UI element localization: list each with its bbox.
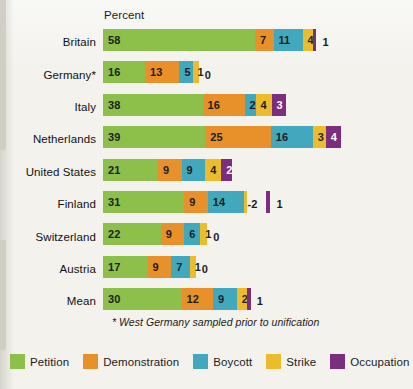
- segment-value: 7: [171, 261, 182, 273]
- chart-row: Switzerland229610: [0, 220, 413, 252]
- bar-segment-strike: 4: [256, 94, 272, 116]
- bar-segment-demonstration: 7: [255, 29, 274, 51]
- legend-item-strike[interactable]: Strike: [266, 354, 316, 369]
- bar-segment-demonstration: 9: [158, 159, 182, 181]
- bar-segment-strike: 2: [237, 288, 247, 310]
- stacked-bar: 3191421: [103, 191, 270, 213]
- bar-segment-demonstration: 9: [148, 256, 172, 278]
- bar-segment-petition: 16: [103, 61, 145, 83]
- stacked-bar: 3816243: [103, 94, 286, 116]
- bar-segment-strike: 1: [193, 61, 199, 83]
- segment-value: 1: [193, 66, 204, 78]
- legend-item-occupation[interactable]: Occupation: [330, 354, 409, 369]
- bar-segment-strike: 1: [190, 256, 196, 278]
- bar-segment-boycott: 16: [271, 126, 313, 148]
- segment-value: 58: [103, 34, 120, 46]
- bar-segment-occupation: 4: [326, 126, 342, 148]
- segment-value: 4: [256, 99, 267, 111]
- chart-row: Austria179710: [0, 253, 413, 285]
- bar-segment-petition: 21: [103, 159, 158, 181]
- legend-swatch-demonstration: [83, 354, 98, 369]
- bar-segment-demonstration: 9: [161, 223, 185, 245]
- segment-value: 13: [145, 66, 162, 78]
- legend-label: Petition: [30, 356, 69, 368]
- bar-outer-value: 1: [257, 295, 263, 307]
- segment-value: 17: [103, 261, 120, 273]
- bar-segment-demonstration: 16: [203, 94, 245, 116]
- bar-segment-boycott: 6: [184, 223, 200, 245]
- bar-segment-occupation: 1: [313, 29, 316, 51]
- segment-value: 2: [245, 99, 256, 111]
- bar-segment-boycott: 7: [171, 256, 190, 278]
- legend-label: Demonstration: [103, 356, 179, 368]
- legend-label: Strike: [286, 356, 316, 368]
- stacked-bar: 22961: [103, 223, 207, 245]
- stacked-bar: 5871141: [103, 29, 316, 51]
- legend-swatch-occupation: [330, 354, 345, 369]
- category-label-britain: Britain: [63, 36, 96, 48]
- bar-segment-petition: 22: [103, 223, 161, 245]
- legend-label: Boycott: [213, 356, 252, 368]
- legend-item-demonstration[interactable]: Demonstration: [83, 354, 179, 369]
- segment-value: 16: [271, 131, 288, 143]
- bar-segment-strike: 4: [205, 159, 221, 181]
- segment-value: 31: [103, 196, 120, 208]
- bar-segment-strike: 1: [200, 223, 207, 245]
- segment-value: 4: [326, 131, 337, 143]
- segment-value: 1: [200, 228, 211, 240]
- chart-legend: PetitionDemonstrationBoycottStrikeOccupa…: [10, 354, 413, 369]
- category-label-germany: Germany*: [43, 69, 96, 81]
- bar-segment-demonstration: 12: [182, 288, 214, 310]
- bar-segment-strike: 4: [303, 29, 314, 51]
- segment-value: 21: [103, 164, 120, 176]
- segment-value: 39: [103, 131, 120, 143]
- bar-outer-value: 1: [323, 36, 329, 48]
- stacked-bar: 219942: [103, 159, 232, 181]
- bar-segment-strike: 3: [313, 126, 326, 148]
- chart-row: United States219942: [0, 156, 413, 188]
- chart-row: Netherlands39251634: [0, 123, 413, 155]
- segment-callout-value: -2: [248, 198, 258, 210]
- chart-row: Italy3816243: [0, 91, 413, 123]
- legend-label: Occupation: [350, 356, 409, 368]
- segment-value: 1: [190, 261, 201, 273]
- chart-row: Germany*1613510: [0, 58, 413, 90]
- category-label-finland: Finland: [58, 198, 96, 210]
- segment-value: 4: [303, 34, 314, 46]
- bar-outer-value: 0: [202, 263, 208, 275]
- stacked-bar: 3012921: [103, 288, 251, 310]
- category-label-netherlands: Netherlands: [33, 133, 96, 145]
- bar-segment-boycott: 14: [208, 191, 245, 213]
- segment-value: 9: [161, 228, 172, 240]
- legend-item-boycott[interactable]: Boycott: [193, 354, 252, 369]
- bar-segment-occupation: 1: [266, 191, 270, 213]
- segment-value: 9: [213, 293, 224, 305]
- stacked-bar: 17971: [103, 256, 196, 278]
- segment-value: 16: [203, 99, 220, 111]
- bar-segment-occupation: 2: [221, 159, 232, 181]
- segment-value: 3: [272, 99, 283, 111]
- legend-item-petition[interactable]: Petition: [10, 354, 69, 369]
- category-label-austria: Austria: [60, 263, 97, 275]
- segment-value: 2: [221, 164, 232, 176]
- category-label-italy: Italy: [74, 101, 96, 113]
- legend-swatch-strike: [266, 354, 281, 369]
- bar-segment-occupation: 1: [247, 288, 251, 310]
- segment-value: 9: [148, 261, 159, 273]
- bar-segment-petition: 31: [103, 191, 184, 213]
- bar-segment-petition: 58: [103, 29, 255, 51]
- segment-value: 7: [255, 34, 266, 46]
- segment-value: 9: [158, 164, 169, 176]
- bar-segment-boycott: 2: [245, 94, 256, 116]
- chart-row: Mean30129211: [0, 285, 413, 317]
- stacked-bar: 161351: [103, 61, 199, 83]
- bar-segment-occupation: 3: [272, 94, 286, 116]
- bar-segment-demonstration: 13: [145, 61, 179, 83]
- chart-row: Finland3191421-21: [0, 188, 413, 220]
- category-label-united-states: United States: [26, 166, 96, 178]
- segment-value: 9: [182, 164, 193, 176]
- segment-value: 16: [103, 66, 120, 78]
- bar-segment-boycott: 11: [274, 29, 303, 51]
- axis-title-percent: Percent: [104, 9, 144, 21]
- bar-outer-value: 1: [277, 198, 283, 210]
